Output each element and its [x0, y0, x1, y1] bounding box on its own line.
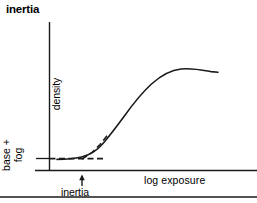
- base-plus-fog-label-line2: fog: [12, 131, 24, 179]
- characteristic-curve-path: [57, 69, 218, 160]
- base-plus-fog-label-line1: base +: [0, 131, 12, 179]
- characteristic-curve-figure: inertia density log exposure base + fog …: [0, 0, 257, 203]
- base-plus-fog-label: base + fog: [0, 131, 24, 179]
- y-axis-label: density: [50, 64, 62, 124]
- x-axis-label: log exposure: [144, 174, 205, 186]
- inertia-arrow-icon: [79, 175, 85, 187]
- inertia-pointer-label: inertia: [61, 186, 89, 198]
- plot-canvas: [0, 0, 257, 203]
